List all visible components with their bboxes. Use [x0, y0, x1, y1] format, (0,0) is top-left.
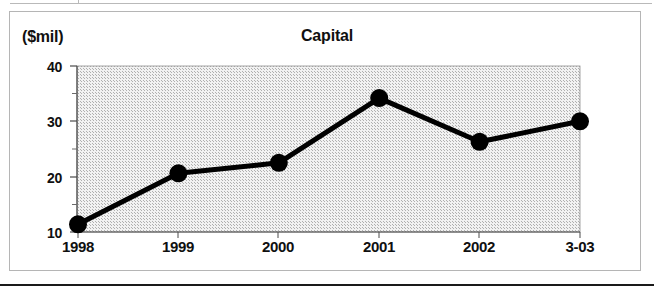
x-tick-label-2001: 2001 — [334, 238, 424, 255]
data-point-2000 — [270, 154, 288, 172]
data-point-2001 — [370, 89, 388, 107]
data-point-3-03 — [571, 112, 589, 130]
y-axis-minor-ticks — [72, 94, 77, 205]
y-tick-label-40: 40 — [22, 59, 62, 75]
x-tick-label-3-03: 3-03 — [535, 238, 625, 255]
data-point-1998 — [69, 215, 87, 233]
data-point-2002 — [471, 133, 489, 151]
data-point-1999 — [169, 164, 187, 182]
plot-background — [77, 66, 580, 232]
y-tick-label-30: 30 — [22, 114, 62, 130]
x-tick-label-1999: 1999 — [133, 238, 223, 255]
x-tick-label-2002: 2002 — [434, 238, 524, 255]
page-bottom-rule — [0, 284, 654, 286]
y-tick-label-20: 20 — [22, 170, 62, 186]
x-tick-label-1998: 1998 — [33, 238, 123, 255]
x-tick-label-2000: 2000 — [233, 238, 323, 255]
